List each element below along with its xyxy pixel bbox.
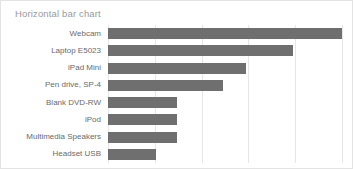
bar[interactable] (108, 114, 177, 125)
chart-title: Horizontal bar chart (15, 8, 101, 19)
chart-plot-wrapper: WebcamLaptop E5023iPad MiniPen drive, SP… (1, 25, 353, 163)
bar[interactable] (108, 63, 246, 74)
bar[interactable] (108, 132, 177, 143)
y-axis-label: Pen drive, SP-4 (45, 81, 101, 89)
y-axis-label: Multimedia Speakers (26, 133, 101, 141)
bar[interactable] (108, 28, 342, 39)
y-axis-label: Webcam (70, 30, 101, 38)
bar-group (108, 25, 346, 163)
bar[interactable] (108, 80, 223, 91)
bar[interactable] (108, 97, 177, 108)
bar[interactable] (108, 45, 293, 56)
y-axis-label: Headset USB (53, 150, 101, 158)
y-axis-label: iPad Mini (68, 64, 101, 72)
y-axis-label: Blank DVD-RW (46, 99, 101, 107)
plot-area (108, 25, 346, 163)
chart-card: Horizontal bar chart WebcamLaptop E5023i… (0, 0, 353, 169)
y-axis-label: iPod (85, 116, 101, 124)
y-axis-label: Laptop E5023 (51, 47, 101, 55)
bar[interactable] (108, 149, 156, 160)
y-axis-label-group: WebcamLaptop E5023iPad MiniPen drive, SP… (1, 25, 105, 163)
